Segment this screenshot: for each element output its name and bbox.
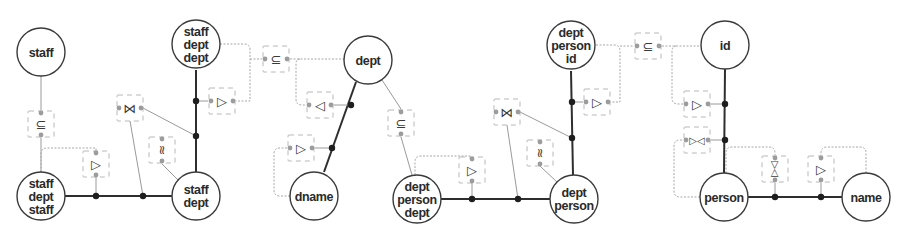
port-dot xyxy=(706,102,711,107)
edge-dept-to-dname xyxy=(324,82,356,172)
edge-eq-to-sd xyxy=(162,164,180,182)
edge-name-to-proj xyxy=(821,147,866,173)
node-name[interactable]: name xyxy=(842,173,890,221)
port-dot xyxy=(657,44,662,49)
group-staff xyxy=(41,44,250,199)
constraint-projection-right[interactable]: ▷ xyxy=(584,89,611,115)
port-dot xyxy=(94,173,99,178)
edge-dept-to-subset xyxy=(382,80,401,109)
port-dot xyxy=(288,146,293,151)
projection-right-icon: ▷ xyxy=(692,97,702,112)
constraint-projection-right[interactable]: ▷ xyxy=(288,135,315,161)
constraint-subset[interactable]: ⊆ xyxy=(635,33,662,59)
junction-dot xyxy=(515,196,521,202)
edge-dpi-to-proj xyxy=(596,45,620,102)
constraint-subset[interactable]: ⊆ xyxy=(388,110,414,137)
junction-dot xyxy=(193,133,199,139)
port-dot xyxy=(209,99,214,104)
node-staff[interactable]: staff xyxy=(17,28,65,76)
port-dot xyxy=(139,106,144,111)
junction-dot xyxy=(140,193,146,199)
node-dept-person[interactable]: deptperson xyxy=(550,175,598,223)
node-label: person xyxy=(704,191,743,205)
port-dot xyxy=(310,146,315,151)
subset-icon: ⊆ xyxy=(36,117,47,132)
edge-join-to-junction xyxy=(520,112,572,138)
port-dot xyxy=(470,179,475,184)
constraint-projection-left[interactable]: ◁ xyxy=(307,92,334,118)
junction-dot xyxy=(93,193,99,199)
node-dname[interactable]: dname xyxy=(290,172,338,220)
node-label: dept xyxy=(562,186,588,200)
port-dot xyxy=(516,110,521,115)
junction-dot xyxy=(469,196,475,202)
junction-dot xyxy=(348,102,354,108)
node-id[interactable]: id xyxy=(701,21,749,69)
constraint-subset[interactable]: ⊆ xyxy=(28,111,54,138)
node-label: dept xyxy=(29,190,55,204)
port-dot xyxy=(39,133,44,138)
group-dept-person xyxy=(415,45,634,202)
edge-eq-to-dp xyxy=(540,166,558,183)
group-person xyxy=(662,46,866,200)
join-icon: ⋈ xyxy=(124,101,137,116)
port-dot xyxy=(635,44,640,49)
subset-icon: ⊆ xyxy=(643,39,654,54)
node-label: dept xyxy=(184,51,210,65)
port-dot xyxy=(399,132,404,137)
constraint-projection-right[interactable]: ▷ xyxy=(459,157,485,184)
edge-person-to-biproj xyxy=(674,140,700,197)
port-dot xyxy=(399,110,404,115)
edge-subset-to-dpd xyxy=(401,137,412,175)
constraint-join[interactable]: ⋈ xyxy=(117,95,144,121)
constraint-bi-projection[interactable]: ▷◁ xyxy=(762,156,788,183)
constraint-projection-right[interactable]: ▷ xyxy=(209,88,236,114)
constraint-bi-projection[interactable]: ▷◁ xyxy=(684,127,711,153)
edge-sds-to-proj xyxy=(41,148,96,172)
node-dept[interactable]: dept xyxy=(344,36,392,84)
port-dot xyxy=(160,159,165,164)
port-dot xyxy=(494,110,499,115)
edge-dept-to-projleft xyxy=(296,59,306,105)
node-staff-dept[interactable]: staffdept xyxy=(172,172,220,220)
node-label: dept xyxy=(559,26,585,40)
edge-join-to-junction xyxy=(143,108,196,136)
nodes-layer: staffstaffdeptstaffstaffdeptdeptstaffdep… xyxy=(17,20,890,223)
node-staff-dept-staff[interactable]: staffdeptstaff xyxy=(17,172,65,220)
edge-id-to-proj xyxy=(672,46,683,104)
junction-dot xyxy=(818,194,824,200)
projection-right-icon: ▷ xyxy=(816,162,826,177)
node-label: id xyxy=(720,39,730,53)
projection-right-icon: ▷ xyxy=(592,95,602,110)
node-dept-person-id[interactable]: deptpersonid xyxy=(547,21,595,69)
constraint-join[interactable]: ⋈ xyxy=(494,99,521,125)
port-dot xyxy=(231,99,236,104)
constraint-projection-right[interactable]: ▷ xyxy=(83,151,109,178)
constraint-projection-right[interactable]: ▷ xyxy=(808,156,834,183)
port-dot xyxy=(606,100,611,105)
port-dot xyxy=(819,178,824,183)
edge-id-to-person xyxy=(724,69,725,173)
node-label: person xyxy=(554,199,593,213)
node-label: dept xyxy=(184,196,210,210)
port-dot xyxy=(819,156,824,161)
port-dot xyxy=(538,162,543,167)
projection-right-icon: ▷ xyxy=(91,157,101,172)
node-label: id xyxy=(566,52,576,66)
node-person[interactable]: person xyxy=(700,173,748,221)
port-dot xyxy=(160,137,165,142)
constraint-projection-right[interactable]: ▷ xyxy=(684,91,711,117)
constraint-subset[interactable]: ⊆ xyxy=(263,46,290,72)
port-dot xyxy=(773,156,778,161)
equality-icon: ≈ xyxy=(155,145,170,156)
constraint-equality[interactable]: ≈ xyxy=(527,140,553,167)
constraint-equality[interactable]: ≈ xyxy=(149,137,175,164)
node-dept-person-dept[interactable]: deptpersondept xyxy=(393,175,441,223)
bi-projection-icon: ▷◁ xyxy=(770,161,781,177)
node-label: dept xyxy=(405,206,431,220)
node-staff-dept-dept[interactable]: staffdeptdept xyxy=(172,20,220,68)
junction-dot xyxy=(193,98,199,104)
join-icon: ⋈ xyxy=(501,105,514,120)
projection-left-icon: ◁ xyxy=(315,98,325,113)
node-label: staff xyxy=(29,203,55,217)
